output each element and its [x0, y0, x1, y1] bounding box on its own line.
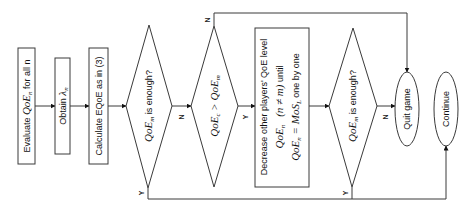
quit-game-terminal: Quit game	[395, 72, 419, 146]
evaluate-prefix: Evaluate	[22, 115, 32, 153]
svg-text:QoEm is enough?: QoEm is enough?	[142, 70, 156, 142]
evaluate-suffix: for all n	[22, 59, 32, 91]
arrow-decision2-no-to-quit	[214, 13, 407, 72]
calculate-label: Calculate EQoE as in (3)	[94, 56, 104, 155]
svg-text:Evaluate QoEn for all n: Evaluate QoEn for all n	[20, 59, 34, 152]
decision2-op: >	[208, 101, 220, 114]
decision2-math-a: QoE	[208, 116, 220, 136]
decision3-yes-label: Y	[342, 190, 349, 195]
decision-qoe-m-enough-1: QoEm is enough?	[126, 25, 172, 188]
decision2-yes-label: Y	[242, 114, 249, 119]
decision3-math: QoE	[346, 121, 358, 141]
decision3-suffix: is enough?	[348, 70, 358, 117]
obtain-sub: n	[62, 87, 70, 91]
svg-text:QoEn = MoSL one by one: QoEn = MoSL one by one	[289, 53, 303, 161]
decision1-yes-label: Y	[138, 190, 145, 195]
flowchart: Evaluate QoEn for all n Obtain λn Calcul…	[0, 0, 473, 212]
decision1-no-label: N	[178, 114, 185, 119]
decision2-math-b: QoE	[208, 80, 220, 100]
decision2-sub-b: m	[214, 75, 222, 80]
svg-text:QoEc > QoEm: QoEc > QoEm	[208, 75, 222, 136]
decrease-line2-cond: (n ≠ m)	[273, 84, 286, 117]
decision-qoe-m-enough-2: QoEm is enough?	[329, 28, 377, 187]
continue-terminal: Continue	[434, 72, 458, 146]
quit-label: Quit game	[402, 88, 412, 130]
decrease-line3-eq: = MoS	[289, 104, 301, 138]
calculate-eqoe-box: Calculate EQoE as in (3)	[89, 48, 108, 164]
decrease-line1: Decrease other players' QoE level	[259, 39, 269, 175]
decrease-line2-suffix: until	[275, 66, 285, 85]
decrease-line2-math: QoE	[273, 128, 285, 148]
decrease-qoe-box: Decrease other players' QoE level QoEn(n…	[255, 28, 309, 187]
decision-qoe-c-greater-m: QoEc > QoEm	[191, 26, 238, 187]
evaluate-math: QoE	[20, 95, 32, 115]
continue-label: Continue	[441, 91, 451, 127]
svg-text:QoEn(n ≠ m) until: QoEn(n ≠ m) until	[273, 66, 287, 149]
evaluate-qoe-box: Evaluate QoEn for all n	[18, 48, 35, 164]
svg-text:Obtain λn: Obtain λn	[56, 87, 70, 125]
decrease-line3-math: QoE	[289, 140, 301, 160]
decision2-no-label: N	[204, 17, 211, 22]
decrease-line2-sub: n	[279, 124, 287, 128]
decision1-math: QoE	[142, 121, 154, 141]
obtain-prefix: Obtain	[58, 96, 68, 125]
decrease-line3-suffix: one by one	[291, 53, 301, 100]
obtain-lambda-box: Obtain λn	[55, 58, 70, 154]
decision1-suffix: is enough?	[144, 70, 154, 117]
decision3-no-label: N	[382, 114, 389, 119]
svg-text:QoEm is enough?: QoEm is enough?	[346, 70, 360, 142]
